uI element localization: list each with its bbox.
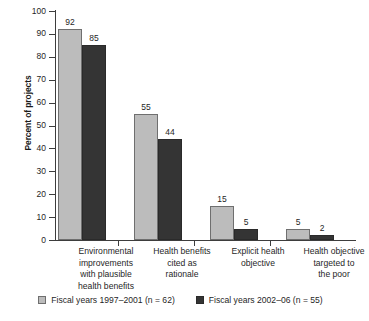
bar (82, 45, 106, 240)
x-axis-line (55, 240, 356, 241)
category-label-line: health benefits (60, 281, 152, 293)
legend: Fiscal years 1997–2001 (n = 62)Fiscal ye… (0, 296, 361, 305)
category-label-line: the poor (288, 269, 369, 281)
bar-value-label: 92 (52, 18, 88, 27)
category-label-line: rationale (136, 269, 228, 281)
category-label-line: Health objective (288, 246, 369, 258)
bar (58, 29, 82, 240)
y-tick-label: 50 (6, 121, 46, 130)
dark-gray-swatch (196, 296, 204, 304)
y-tick-label: 40 (6, 144, 46, 153)
bar-value-label: 5 (228, 218, 264, 227)
bar-value-label: 55 (128, 103, 164, 112)
legend-item[interactable]: Fiscal years 1997–2001 (n = 62) (38, 296, 175, 305)
bar-value-label: 15 (204, 195, 240, 204)
light-gray-swatch (38, 296, 46, 304)
y-tick-label: 30 (6, 167, 46, 176)
legend-item[interactable]: Fiscal years 2002–06 (n = 55) (196, 296, 323, 305)
y-tick-label: 90 (6, 29, 46, 38)
y-tick-label: 20 (6, 190, 46, 199)
category-label: Health objectivetargeted tothe poor (288, 246, 369, 281)
y-tick-label: 60 (6, 98, 46, 107)
bar-value-label: 85 (76, 34, 112, 43)
bar-value-label: 44 (152, 128, 188, 137)
category-label-line: targeted to (288, 258, 369, 270)
bar-value-label: 2 (304, 224, 340, 233)
y-tick-label: 10 (6, 213, 46, 222)
legend-label: Fiscal years 2002–06 (n = 55) (209, 296, 323, 305)
bar (158, 139, 182, 240)
legend-label: Fiscal years 1997–2001 (n = 62) (51, 296, 175, 305)
bar (234, 229, 258, 240)
bar (310, 235, 334, 240)
y-tick-label: 0 (6, 236, 46, 245)
y-tick-label: 100 (6, 7, 46, 16)
y-tick-label: 70 (6, 75, 46, 84)
y-tick-label: 80 (6, 52, 46, 61)
y-axis-line (55, 10, 56, 241)
